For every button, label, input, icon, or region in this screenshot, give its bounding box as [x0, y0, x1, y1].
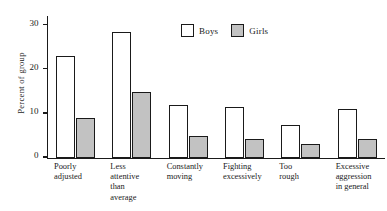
y-tick-label: 0 — [34, 150, 39, 161]
category-label-1: Less attentive than average — [110, 162, 139, 203]
bar-boys-2 — [169, 105, 188, 158]
gray-square-icon — [231, 24, 244, 37]
bar-chart: Percent of group 0102030 Poorly adjusted… — [0, 0, 387, 211]
x-axis-category-labels: Poorly adjustedLess attentive than avera… — [47, 162, 385, 211]
bar-boys-3 — [225, 107, 244, 158]
legend-item-boys: Boys — [181, 24, 218, 37]
bar-girls-2 — [189, 136, 208, 158]
bar-series-group — [47, 17, 385, 158]
y-tick-label: 10 — [30, 106, 39, 117]
category-label-4: Too rough — [279, 162, 299, 182]
bar-boys-4 — [281, 125, 300, 158]
bar-boys-1 — [112, 32, 131, 158]
white-square-icon — [181, 24, 194, 37]
chart-legend: Boys Girls — [181, 24, 268, 37]
legend-item-girls: Girls — [231, 24, 268, 37]
y-axis-label: Percent of group — [16, 18, 26, 148]
legend-label-boys: Boys — [199, 26, 218, 36]
bar-girls-1 — [132, 92, 151, 158]
bar-girls-0 — [76, 118, 95, 158]
bar-girls-3 — [245, 139, 264, 158]
category-label-3: Fighting excessively — [223, 162, 262, 182]
category-label-2: Constantly moving — [167, 162, 203, 182]
bar-boys-0 — [56, 56, 75, 157]
category-label-5: Excessive aggression in general — [336, 162, 372, 193]
bar-girls-4 — [301, 144, 320, 157]
bar-girls-5 — [358, 139, 377, 158]
plot-area: 0102030 — [47, 16, 385, 159]
y-tick-label: 30 — [30, 18, 39, 29]
y-tick-label: 20 — [30, 62, 39, 73]
category-label-0: Poorly adjusted — [54, 162, 82, 182]
bar-boys-5 — [338, 109, 357, 157]
legend-label-girls: Girls — [249, 26, 268, 36]
x-axis-line — [47, 158, 385, 159]
